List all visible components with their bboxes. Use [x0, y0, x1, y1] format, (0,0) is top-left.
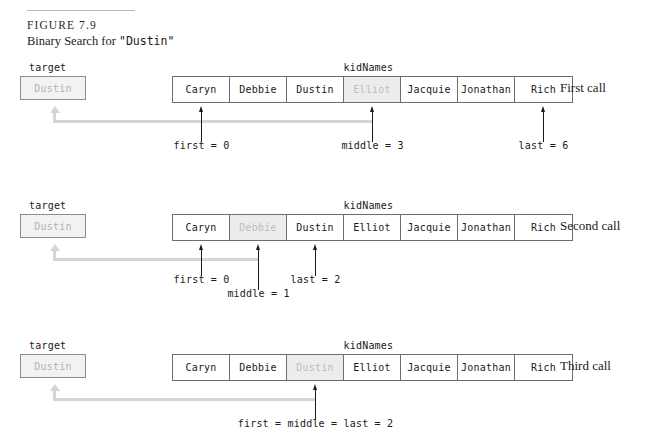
last-pointer-label: last = 6	[519, 140, 569, 151]
figure-divider-rule	[27, 10, 135, 11]
arrow-stem	[201, 111, 202, 142]
target-label: target	[29, 200, 66, 211]
array-cell: Jonathan	[458, 215, 515, 240]
array-name-label: kidNames	[344, 200, 394, 211]
last-pointer-label: last = 2	[291, 274, 341, 285]
array-cell: Dustin	[287, 77, 344, 102]
array-cell: Debbie	[230, 215, 287, 240]
array-cell: Dustin	[287, 355, 344, 380]
array-cell: Dustin	[287, 215, 344, 240]
call-label: Third call	[560, 358, 611, 374]
target-value: Dustin	[34, 221, 71, 232]
array-name-label: kidNames	[344, 340, 394, 351]
target-label: target	[29, 340, 66, 351]
array-cell: Elliot	[344, 355, 401, 380]
array-cell: Elliot	[344, 77, 401, 102]
array-cell: Caryn	[173, 215, 230, 240]
arrow-stem	[372, 111, 373, 142]
array-kidnames: CarynDebbieDustinElliotJacquieJonathanRi…	[172, 354, 573, 381]
target-box: Dustin	[20, 76, 86, 100]
figure-header: FIGURE 7.9 Binary Search for "Dustin"	[27, 10, 327, 50]
return-arrow-run	[53, 398, 316, 401]
array-cell: Debbie	[230, 77, 287, 102]
arrow-stem	[201, 249, 202, 276]
figure-number: FIGURE 7.9	[27, 18, 327, 32]
return-arrow-run	[53, 258, 259, 261]
target-value: Dustin	[34, 361, 71, 372]
return-arrow-stem	[53, 250, 56, 258]
array-cell: Jacquie	[401, 77, 458, 102]
array-cell: Jonathan	[458, 355, 515, 380]
middle-pointer-label: middle = 1	[227, 288, 289, 299]
return-arrow-stem	[53, 112, 56, 120]
first-pointer-label: first = 0	[174, 140, 230, 151]
arrow-stem	[315, 249, 316, 276]
target-label: target	[29, 62, 66, 73]
array-cell: Elliot	[344, 215, 401, 240]
array-cell: Debbie	[230, 355, 287, 380]
array-cell: Jonathan	[458, 77, 515, 102]
target-box: Dustin	[20, 354, 86, 378]
first-middle-last-pointer-label: first = middle = last = 2	[238, 418, 394, 429]
array-kidnames: CarynDebbieDustinElliotJacquieJonathanRi…	[172, 76, 573, 103]
figure-caption-prefix: Binary Search for	[27, 34, 119, 48]
figure-caption-target: "Dustin"	[119, 34, 174, 48]
array-cell: Caryn	[173, 355, 230, 380]
target-value: Dustin	[34, 83, 71, 94]
return-arrow-stem	[53, 390, 56, 398]
figure-caption: Binary Search for "Dustin"	[27, 33, 327, 50]
call-label: Second call	[560, 218, 620, 234]
arrow-stem	[315, 389, 316, 420]
first-pointer-label: first = 0	[174, 274, 230, 285]
call-label: First call	[560, 80, 606, 96]
arrow-stem	[258, 249, 259, 290]
array-cell: Jacquie	[401, 355, 458, 380]
array-cell: Jacquie	[401, 215, 458, 240]
target-box: Dustin	[20, 214, 86, 238]
middle-pointer-label: middle = 3	[341, 140, 403, 151]
array-name-label: kidNames	[344, 62, 394, 73]
array-kidnames: CarynDebbieDustinElliotJacquieJonathanRi…	[172, 214, 573, 241]
arrow-stem	[543, 111, 544, 142]
return-arrow-run	[53, 120, 373, 123]
array-cell: Caryn	[173, 77, 230, 102]
